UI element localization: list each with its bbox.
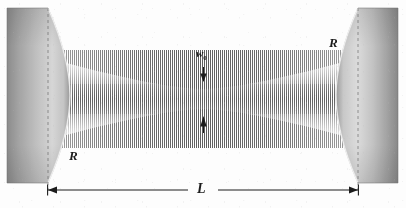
optical-resonator-figure: R R L w0 [0, 0, 406, 208]
gaussian-beam [48, 50, 358, 148]
figure-canvas [0, 0, 406, 208]
label-beam-waist: w0 [196, 47, 207, 62]
label-radius-top-right: R [329, 35, 338, 51]
label-cavity-length: L [197, 181, 206, 197]
label-beam-waist-subscript: 0 [203, 54, 207, 62]
label-radius-bottom-left: R [69, 148, 78, 164]
right-mirror [336, 8, 398, 183]
left-mirror [7, 8, 70, 183]
